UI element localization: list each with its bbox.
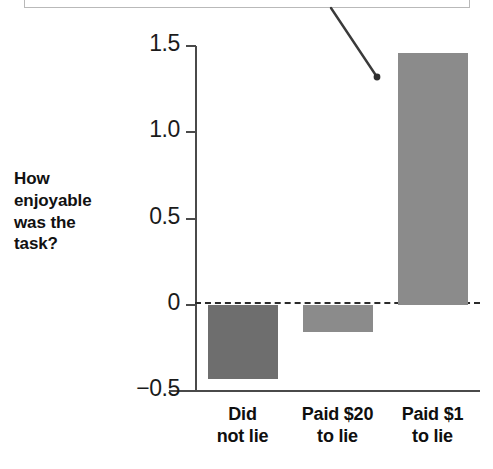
bar-chart-figure: the task had been How enjoyable was the … xyxy=(0,0,493,469)
y-tick-label-wrap: 1.5 xyxy=(106,46,180,47)
y-tick-label: 1.5 xyxy=(110,30,180,57)
y-tick-label-wrap: 1.0 xyxy=(106,132,180,133)
y-tick-mark xyxy=(186,304,196,306)
y-tick-label-wrap: 0.5 xyxy=(106,219,180,220)
y-tick-label-wrap: 0 xyxy=(106,305,180,306)
y-axis-label: How enjoyable was the task? xyxy=(14,168,114,255)
y-axis-label-line-3: was the xyxy=(14,212,114,234)
y-tick-label: 1.0 xyxy=(110,116,180,143)
x-axis-line xyxy=(169,390,480,392)
caption-box: the task had been xyxy=(24,0,470,8)
y-axis-label-line-1: How xyxy=(14,168,114,190)
x-tick-label: Paid $1to lie xyxy=(373,404,493,448)
y-tick-label-min: −0.5 xyxy=(110,375,180,402)
bar xyxy=(398,53,468,305)
y-tick-label: 0.5 xyxy=(110,203,180,230)
bar xyxy=(303,305,373,333)
bar xyxy=(208,305,278,379)
y-axis-label-line-2: enjoyable xyxy=(14,190,114,212)
y-tick-label-wrap-min: −0.5 xyxy=(106,391,180,392)
y-tick-mark xyxy=(186,45,196,47)
x-tick-label-line: to lie xyxy=(373,426,493,448)
x-tick-label-line: Paid $1 xyxy=(373,404,493,426)
y-axis-label-line-4: task? xyxy=(14,233,114,255)
y-tick-label: 0 xyxy=(110,289,180,316)
y-tick-mark xyxy=(186,131,196,133)
y-tick-mark xyxy=(186,218,196,220)
